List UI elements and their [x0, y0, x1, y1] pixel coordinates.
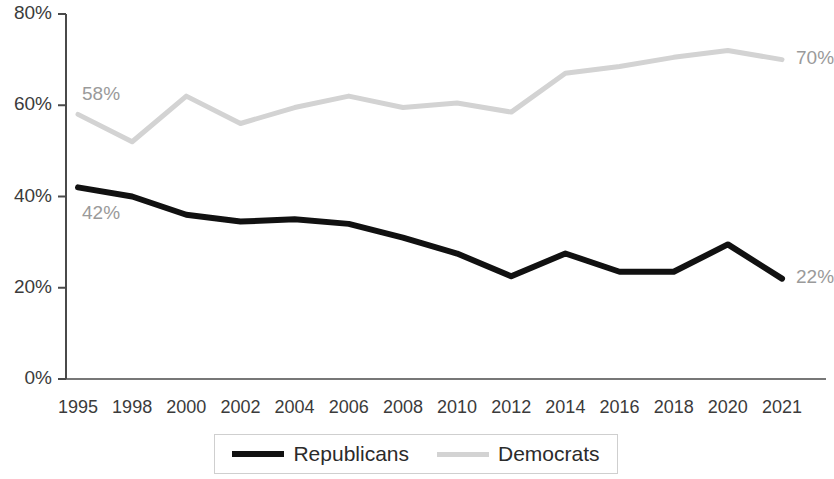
y-axis-tick-label: 80%: [0, 2, 52, 24]
data-point-label: 22%: [796, 266, 834, 288]
x-axis-tick-label: 2000: [156, 397, 216, 418]
x-axis-tick-label: 2020: [698, 397, 758, 418]
legend-line-swatch-republicans: [232, 451, 284, 457]
x-axis-tick-label: 1995: [48, 397, 108, 418]
legend-line-swatch-democrats: [437, 452, 489, 457]
x-axis-tick-label: 2002: [210, 397, 270, 418]
series-line-republicans: [78, 187, 782, 278]
y-axis-tick-label: 60%: [0, 93, 52, 115]
x-axis-tick-label: 2021: [752, 397, 812, 418]
x-axis-tick-label: 2008: [373, 397, 433, 418]
legend-label-democrats: Democrats: [498, 442, 600, 466]
x-axis-tick-label: 2006: [319, 397, 379, 418]
data-point-label: 70%: [796, 47, 834, 69]
y-axis-tick-label: 0%: [0, 367, 52, 389]
series-line-democrats: [78, 51, 782, 142]
y-axis-tick-label: 20%: [0, 276, 52, 298]
x-axis-tick-label: 2018: [644, 397, 704, 418]
x-axis-tick-label: 2004: [265, 397, 325, 418]
x-axis-tick-label: 2016: [590, 397, 650, 418]
data-point-label: 42%: [82, 202, 120, 224]
legend-item-democrats[interactable]: Democrats: [437, 442, 600, 466]
data-point-label: 58%: [82, 83, 120, 105]
y-axis-ticks: [58, 14, 66, 379]
y-axis-tick-label: 40%: [0, 185, 52, 207]
x-axis-tick-label: 2014: [535, 397, 595, 418]
x-axis-tick-label: 1998: [102, 397, 162, 418]
x-axis-tick-label: 2012: [481, 397, 541, 418]
legend-label-republicans: Republicans: [293, 442, 409, 466]
legend-item-republicans[interactable]: Republicans: [232, 442, 409, 466]
x-axis-tick-label: 2010: [427, 397, 487, 418]
chart-legend: Republicans Democrats: [214, 434, 618, 474]
